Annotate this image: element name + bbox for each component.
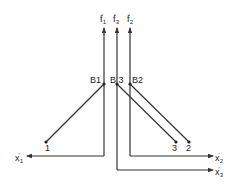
label-f3-sub: 3 — [116, 19, 119, 25]
label-x3-sub: 3 — [220, 172, 223, 178]
label-node-2: 2 — [186, 144, 191, 153]
label-f3: f'3 — [113, 13, 119, 25]
label-b3: B 3 — [110, 76, 124, 85]
label-x1: x'1 — [15, 152, 23, 164]
label-node-1: 1 — [45, 144, 50, 153]
link-1-b1 — [46, 84, 104, 142]
label-f1-sub: 1 — [103, 19, 106, 25]
label-f1: f'1 — [100, 13, 106, 25]
link-b3-3 — [117, 84, 176, 142]
label-x1-sub: 1 — [20, 158, 23, 164]
label-x2: x'2 — [215, 152, 223, 164]
label-f2-sub: 2 — [130, 19, 133, 25]
label-b1: B1 — [90, 76, 101, 85]
link-b2-2 — [130, 84, 189, 142]
diagram-canvas: f'1 f'3 f'2 x'1 x'2 x'3 B1 B 3 B2 1 3 2 — [0, 0, 235, 185]
label-node-3: 3 — [172, 144, 177, 153]
diagram-lines — [0, 0, 235, 185]
node-b1 — [102, 82, 105, 85]
label-x3: x'3 — [215, 166, 223, 178]
label-x2-sub: 2 — [220, 158, 223, 164]
label-b2: B2 — [132, 76, 143, 85]
label-f2: f'2 — [127, 13, 133, 25]
